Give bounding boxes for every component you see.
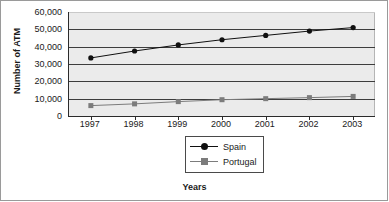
legend-label: Spain [218,142,246,152]
series-line [91,28,353,58]
data-point-marker [88,103,93,108]
x-axis-tick-label: 1998 [114,119,154,129]
y-axis-tick-label: 30,000 [14,60,62,69]
legend-item-portugal: Portugal [190,154,257,169]
data-point-marker [351,94,356,99]
data-point-marker [307,95,312,100]
series-spain [88,25,355,61]
x-axis-tick-label: 2003 [332,119,372,129]
legend-sample [190,141,218,153]
x-axis-tick-label: 2001 [245,119,285,129]
data-point-marker [132,101,137,106]
legend-item-spain: Spain [190,139,257,154]
chart-legend: SpainPortugal [185,136,264,173]
series-layer [69,12,375,116]
x-axis-tick-label: 1997 [70,119,110,129]
data-point-marker [132,48,137,53]
data-point-marker [88,55,93,60]
y-axis-tick-label: 10,000 [14,95,62,104]
plot-area [68,12,375,117]
x-axis-tick-label: 2002 [288,119,328,129]
legend-label: Portugal [218,157,257,167]
y-axis-tick-label: 60,000 [14,8,62,17]
chart-figure: Number of ATM 010,00020,00030,00040,0005… [0,0,389,202]
y-axis-tick-label: 0 [14,112,62,121]
series-portugal [88,94,355,108]
legend-marker-square-icon [201,158,208,165]
data-point-marker [176,42,181,47]
data-point-marker [307,28,312,33]
x-axis-tick-label: 2000 [201,119,241,129]
data-point-marker [263,96,268,101]
legend-sample [190,156,218,168]
data-point-marker [263,33,268,38]
x-axis-title: Years [0,182,389,192]
y-axis-tick-label: 50,000 [14,25,62,34]
x-axis-tick-label: 1999 [157,119,197,129]
y-axis-tick-labels: 010,00020,00030,00040,00050,00060,000 [14,12,62,116]
data-point-marker [219,37,224,42]
data-point-marker [176,99,181,104]
y-axis-tick-label: 40,000 [14,43,62,52]
legend-marker-diamond-icon [201,143,208,150]
y-axis-tick-label: 20,000 [14,77,62,86]
data-point-marker [351,25,356,30]
data-point-marker [220,97,225,102]
x-axis-tick-labels: 1997199819992000200120022003 [68,119,374,133]
